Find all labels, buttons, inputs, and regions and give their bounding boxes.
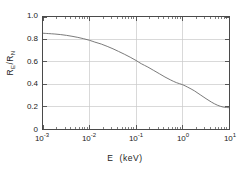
x-tick-mantissa: 10 (35, 134, 44, 143)
x-tick-label-1e0: 100 (163, 134, 203, 143)
y-axis-title: RE/RN (5, 31, 15, 95)
x-axis-symbol: E (107, 153, 113, 163)
figure-canvas: 1.0 0.8 0.6 0.4 0.2 0 10-3 10-2 10-1 100… (0, 0, 250, 173)
x-axis-unit: (keV) (119, 153, 142, 163)
data-curve (43, 33, 229, 107)
x-tick-label-1e-3: 10-3 (22, 134, 62, 143)
y-tick-label-1.0: 1.0 (6, 12, 38, 20)
y-tick-label-0.2: 0.2 (6, 103, 38, 111)
plot-area (42, 16, 230, 130)
x-tick-exponent: -2 (91, 132, 96, 138)
data-curve-layer (43, 17, 229, 129)
x-tick-exponent: -3 (44, 132, 49, 138)
y-axis-denominator-subscript: N (10, 51, 16, 56)
x-tick-label-1e-2: 10-2 (69, 134, 109, 143)
x-tick-label-1e-1: 10-1 (116, 134, 156, 143)
x-tick-exponent: -1 (138, 132, 143, 138)
x-tick-exponent: 0 (186, 132, 189, 138)
x-tick-mantissa: 10 (82, 134, 91, 143)
x-tick-mantissa: 10 (129, 134, 138, 143)
y-tick-label-0: 0 (6, 126, 38, 134)
y-axis-numerator-subscript: E (10, 65, 16, 69)
x-tick-mantissa: 10 (177, 134, 186, 143)
x-tick-mantissa: 10 (224, 134, 233, 143)
y-axis-denominator: R (5, 55, 15, 62)
x-tick-exponent: 1 (233, 132, 236, 138)
x-tick-label-1e1: 101 (210, 134, 250, 143)
y-axis-numerator: R (5, 69, 15, 76)
x-axis-title: E (keV) (0, 153, 250, 163)
